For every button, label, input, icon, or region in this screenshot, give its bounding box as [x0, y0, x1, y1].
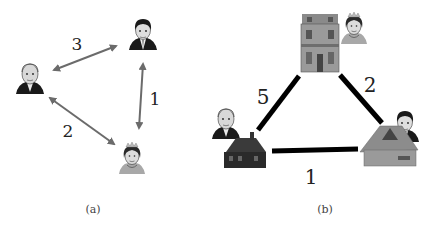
edge-arrow-1 — [139, 64, 143, 128]
panel-caption: (b) — [317, 203, 333, 216]
edge-line-1 — [272, 149, 358, 151]
portrait-queen-icon — [119, 142, 145, 174]
townhouse-icon — [301, 14, 339, 72]
edge-arrow-3 — [54, 46, 116, 70]
panel-caption: (a) — [85, 203, 100, 216]
portrait-younger-man-icon — [129, 19, 157, 50]
edge-weight-label: 3 — [72, 34, 83, 54]
portrait-queen-icon — [341, 12, 367, 44]
edge-weight-label: 5 — [257, 85, 270, 109]
panel-b: 5 2 1 (b) — [212, 12, 419, 216]
edge-weight-label: 2 — [63, 121, 74, 141]
portrait-older-man-icon — [16, 64, 44, 94]
edge-weight-label: 1 — [150, 89, 161, 109]
diagram-canvas: 3 1 2 (a) — [0, 0, 432, 225]
edge-weight-label: 2 — [364, 73, 377, 97]
edge-weight-label: 1 — [305, 165, 318, 189]
edge-arrow-2 — [50, 98, 114, 144]
panel-a: 3 1 2 (a) — [16, 19, 160, 216]
portrait-older-man-icon — [212, 109, 240, 139]
